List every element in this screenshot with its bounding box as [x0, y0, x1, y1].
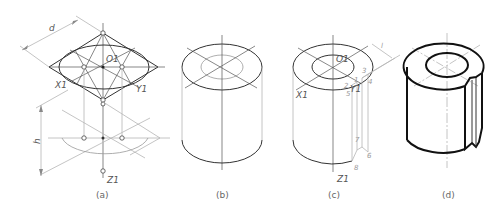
caption-c: (c) — [328, 190, 340, 200]
isometric-cylinder-construction-figure: d — [0, 0, 502, 215]
slot-bottom — [352, 150, 357, 161]
point-marker — [101, 169, 105, 173]
extension-line — [76, 16, 103, 33]
label-d: d — [49, 23, 55, 33]
label-point-8: 8 — [354, 164, 359, 172]
label-l: l — [381, 42, 383, 50]
label-h: h — [32, 138, 42, 144]
caption-d: (d) — [442, 190, 455, 200]
label-point-3: 3 — [362, 67, 366, 75]
panel-b: (b) — [182, 35, 262, 200]
label-point-4: 4 — [368, 78, 372, 86]
label-o1: O1 — [106, 54, 119, 64]
arrow-icon — [72, 20, 78, 25]
axis-y1 — [70, 50, 140, 88]
slot-bottom — [357, 147, 362, 150]
arrow-icon — [39, 169, 43, 176]
bottom-rhombus-edge — [100, 100, 160, 138]
label-o1: O1 — [336, 54, 349, 64]
center-point — [101, 65, 104, 68]
panel-d: (d) — [404, 33, 484, 200]
label-point-2: 2 — [344, 82, 349, 90]
slot-top — [465, 73, 482, 86]
label-x1: X1 — [295, 90, 308, 100]
label-y1: Y1 — [136, 84, 147, 94]
axis-line — [185, 46, 255, 88]
slot-outline — [465, 73, 482, 149]
point-marker — [82, 136, 86, 140]
label-point-6: 6 — [367, 152, 372, 160]
bottom-axis-x1 — [40, 118, 150, 175]
label-y1: Y1 — [350, 84, 361, 94]
panel-a: d — [20, 16, 170, 200]
extension-line — [36, 90, 68, 108]
label-z1: Z1 — [336, 174, 349, 184]
caption-b: (b) — [216, 190, 229, 200]
point-marker — [120, 65, 124, 69]
label-point-5: 5 — [346, 90, 351, 98]
panel-c: l O1 X1 Y1 Z1 1 2 3 4 5 6 7 8 (c) — [293, 35, 400, 200]
bottom-ellipse-arc — [62, 138, 148, 154]
bottom-axis-y1 — [62, 110, 145, 158]
label-point-1: 1 — [354, 76, 358, 84]
caption-a: (a) — [96, 190, 109, 200]
label-point-7: 7 — [355, 136, 360, 144]
point-marker — [82, 65, 86, 69]
construction-line — [75, 50, 103, 100]
label-z1: Z1 — [106, 175, 119, 185]
point-marker — [120, 136, 124, 140]
bottom-rhombus-edge — [130, 138, 160, 155]
center-point — [102, 137, 105, 140]
bottom-ellipse-arc — [293, 140, 352, 164]
bottom-ellipse-arc — [407, 140, 465, 153]
axis-x1 — [72, 48, 135, 81]
label-x1: X1 — [54, 80, 67, 90]
point-marker — [101, 31, 105, 35]
